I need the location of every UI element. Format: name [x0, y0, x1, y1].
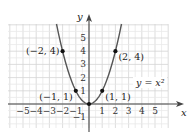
x-tick-label: −4 [30, 106, 44, 116]
equation-label: y = x² [135, 77, 165, 88]
point-label: (−1, 1) [39, 91, 73, 102]
x-tick-label: −2 [56, 106, 69, 116]
data-point [113, 49, 117, 53]
point-label: (2, 4) [118, 51, 144, 62]
data-point [74, 89, 78, 93]
x-tick-label: −3 [43, 106, 57, 116]
y-tick-label: 4 [80, 46, 86, 56]
x-tick-label: −5 [16, 106, 30, 116]
y-tick-label: 2 [80, 73, 86, 83]
point-label: (1, 1) [105, 91, 131, 102]
data-point [87, 102, 91, 106]
data-point [61, 49, 65, 53]
x-tick-label: 3 [126, 106, 132, 116]
x-axis-label: x [181, 107, 187, 118]
point-label: (−2, 4) [26, 45, 60, 56]
parabola-chart: x y −5−4−3−2−112345−112345 (−2, 4)(−1, 1… [0, 0, 195, 132]
x-tick-label: 1 [99, 106, 105, 116]
data-point [100, 89, 104, 93]
x-tick-label: 4 [139, 106, 145, 116]
y-tick-label: −1 [73, 112, 86, 122]
y-tick-label: 5 [80, 33, 86, 43]
y-tick-label: 1 [80, 86, 86, 96]
y-axis-label: y [76, 11, 83, 22]
y-tick-label: 3 [80, 59, 86, 69]
x-tick-label: 5 [152, 106, 158, 116]
x-tick-label: 2 [113, 106, 119, 116]
